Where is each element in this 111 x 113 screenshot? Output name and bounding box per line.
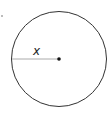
center-point bbox=[57, 57, 61, 61]
stray-dot bbox=[1, 15, 3, 17]
circle-diagram: x bbox=[0, 0, 111, 113]
radius-label: x bbox=[32, 44, 41, 58]
